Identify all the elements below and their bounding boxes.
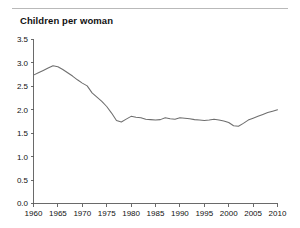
x-tick-label: 1970 bbox=[73, 209, 91, 218]
x-tick-label: 2005 bbox=[244, 209, 262, 218]
x-tick-label: 1990 bbox=[171, 209, 189, 218]
y-tick-label: 2.0 bbox=[17, 106, 29, 115]
x-tick-label: 1975 bbox=[98, 209, 116, 218]
y-tick-label: 0.0 bbox=[17, 199, 29, 208]
x-tick-label: 2000 bbox=[220, 209, 238, 218]
x-tick-label: 1960 bbox=[25, 209, 43, 218]
x-tick-label: 1980 bbox=[122, 209, 140, 218]
x-tick-label: 1985 bbox=[147, 209, 165, 218]
x-tick-label: 2010 bbox=[269, 209, 287, 218]
x-tick-label: 1995 bbox=[195, 209, 213, 218]
y-tick-label: 3.0 bbox=[17, 59, 29, 68]
y-tick-label: 0.5 bbox=[17, 176, 29, 185]
x-axis: 1960196519701975198019851990199520002005… bbox=[25, 204, 287, 218]
data-line-children-per-woman bbox=[34, 66, 278, 126]
y-tick-label: 3.5 bbox=[17, 35, 29, 44]
y-tick-label: 1.0 bbox=[17, 153, 29, 162]
line-chart-plot: 0.00.51.01.52.02.53.03.5 196019651970197… bbox=[0, 0, 300, 228]
chart-figure: Children per woman 0.00.51.01.52.02.53.0… bbox=[0, 0, 300, 228]
y-tick-label: 2.5 bbox=[17, 82, 29, 91]
data-series-group bbox=[34, 66, 278, 126]
y-tick-label: 1.5 bbox=[17, 129, 29, 138]
x-tick-label: 1965 bbox=[49, 209, 67, 218]
y-axis: 0.00.51.01.52.02.53.03.5 bbox=[17, 35, 34, 208]
